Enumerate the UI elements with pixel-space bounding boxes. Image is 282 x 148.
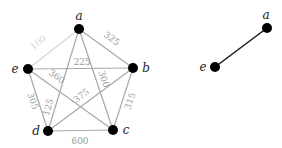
selected-edge-graph: a e bbox=[199, 8, 272, 74]
node-label-d: d bbox=[32, 124, 40, 138]
node-b bbox=[128, 63, 138, 73]
weight-d-c: 600 bbox=[71, 136, 88, 146]
node-e bbox=[23, 64, 33, 74]
weighted-complete-graph: 100 325 225 300 360 125 375 305 315 600 … bbox=[11, 9, 149, 146]
edge-e-b bbox=[28, 68, 133, 69]
weight-a-b: 325 bbox=[102, 29, 122, 47]
node-a bbox=[74, 24, 84, 34]
node-c bbox=[108, 125, 118, 135]
weight-d-b: 375 bbox=[71, 86, 91, 104]
weight-e-c: 360 bbox=[47, 68, 67, 86]
edge-d-c bbox=[48, 130, 113, 131]
graph-canvas: 100 325 225 300 360 125 375 305 315 600 … bbox=[0, 0, 282, 148]
node-e-right bbox=[210, 62, 220, 72]
node-label-e-right: e bbox=[199, 60, 206, 74]
node-d bbox=[43, 126, 53, 136]
node-label-c: c bbox=[123, 123, 130, 137]
node-label-a: a bbox=[75, 9, 82, 23]
node-a-right bbox=[262, 23, 272, 33]
node-label-e: e bbox=[11, 62, 18, 76]
edge-e-a-selected bbox=[215, 28, 267, 67]
weight-e-d: 305 bbox=[25, 91, 40, 111]
weight-e-b: 225 bbox=[73, 57, 90, 67]
weight-a-e: 100 bbox=[28, 33, 48, 52]
node-label-a-right: a bbox=[262, 8, 269, 22]
node-label-b: b bbox=[142, 61, 150, 75]
